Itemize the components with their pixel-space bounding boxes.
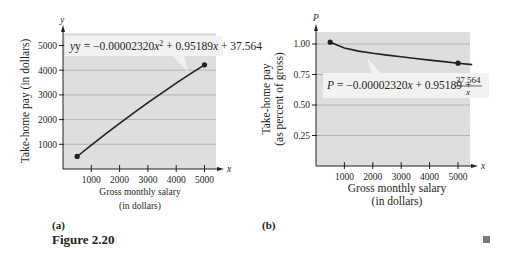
chart-a-y-axis-arrow-icon [61,25,65,32]
chart-a-x-axis-arrow-icon [217,167,224,171]
x-tick-label: 5000 [449,172,468,182]
x-tick-label: 1000 [335,172,354,182]
x-tick-label: 1000 [82,175,101,185]
x-tick-label: 4000 [167,175,186,185]
chart-b-y-label-line2: (as percent of gross) [273,52,286,146]
chart-b-y-label-line1: Take-home pay [260,63,273,134]
chart-a: 10002000300040005000 1000200030004000500… [19,15,262,247]
x-tick-label: 5000 [195,175,214,185]
chart-b-equation: P = −0.00002320x + 0.95189 + [326,79,471,91]
y-tick-label: 4000 [38,66,57,76]
chart-a-equation: yy = −0.00002320x2 + 0.95189x + 37.564 [69,39,262,53]
y-tick-label: 0.75 [293,70,310,80]
chart-a-x-label-line1: Gross monthly salary [99,187,181,197]
x-tick-label: 3000 [138,175,157,185]
x-tick-label: 2000 [363,172,382,182]
chart-b-fraction-numerator: 37.564 [456,75,481,85]
data-point-marker [75,154,80,159]
chart-b-x-axis-arrow-icon [471,164,478,168]
chart-b-fraction-denominator: x [465,87,470,97]
x-tick-label: 2000 [110,175,129,185]
end-of-example-square-icon [483,236,490,243]
y-tick-label: 2000 [38,115,57,125]
chart-b-panel-label: (b) [262,219,276,232]
chart-b-y-ticks: 0.250.500.751.00 [293,39,317,141]
chart-b-y-var: P [312,13,319,23]
x-tick-label: 4000 [420,172,439,182]
chart-a-x-var: x [226,164,232,174]
data-point-marker [455,61,460,66]
chart-a-x-label-line2: (in dollars) [119,201,161,212]
y-tick-label: 0.25 [293,131,310,141]
chart-b-x-var: x [480,161,486,171]
y-tick-label: 1000 [38,140,57,150]
data-point-marker [202,62,207,67]
y-tick-label: 1.00 [293,39,310,49]
chart-b-x-label-line1: Gross monthly salary [348,182,447,195]
chart-a-y-var: y [59,15,65,25]
chart-b: 0.250.500.751.00 10002000300040005000 P … [260,13,489,232]
figure-caption: Figure 2.20 [52,232,115,247]
y-tick-label: 3000 [38,90,57,100]
y-tick-label: 0.50 [293,100,310,110]
chart-b-x-label-line2: (in dollars) [372,195,423,208]
x-tick-label: 3000 [392,172,411,182]
chart-a-y-ticks: 10002000300040005000 [38,41,64,150]
chart-b-y-axis-arrow-icon [314,24,318,31]
chart-b-plot-area [316,32,470,166]
chart-a-y-label: Take-home pay (in dollars) [19,38,32,163]
data-point-marker [328,40,333,45]
y-tick-label: 5000 [38,41,57,51]
chart-a-panel-label: (a) [52,219,65,232]
figure-canvas: 10002000300040005000 1000200030004000500… [0,0,508,254]
